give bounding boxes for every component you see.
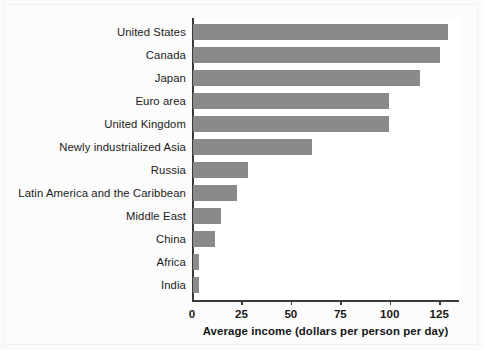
bar bbox=[193, 208, 221, 224]
bar bbox=[193, 24, 448, 40]
bar-row: Euro area bbox=[193, 93, 460, 109]
bar-row: Canada bbox=[193, 47, 460, 63]
x-axis-tick bbox=[241, 300, 242, 305]
bar-row: China bbox=[193, 231, 460, 247]
chart-page: United StatesCanadaJapanEuro areaUnited … bbox=[0, 0, 484, 350]
x-axis-tick bbox=[291, 300, 292, 305]
bar-category-label: Latin America and the Caribbean bbox=[18, 187, 186, 199]
bar bbox=[193, 162, 248, 178]
bar-row: United Kingdom bbox=[193, 116, 460, 132]
bar-category-label: Newly industrialized Asia bbox=[59, 141, 186, 153]
bar-row: Latin America and the Caribbean bbox=[193, 185, 460, 201]
bar-row: Middle East bbox=[193, 208, 460, 224]
bar-row: India bbox=[193, 277, 460, 293]
bar bbox=[193, 139, 312, 155]
bar-category-label: Middle East bbox=[126, 210, 186, 222]
bar-row: Newly industrialized Asia bbox=[193, 139, 460, 155]
bar bbox=[193, 116, 389, 132]
bar-row: Russia bbox=[193, 162, 460, 178]
bar bbox=[193, 70, 420, 86]
bar-row: Japan bbox=[193, 70, 460, 86]
bar bbox=[193, 93, 389, 109]
bar bbox=[193, 185, 237, 201]
bar bbox=[193, 277, 199, 293]
bar-category-label: Japan bbox=[155, 72, 186, 84]
x-axis-tick-label: 125 bbox=[430, 307, 449, 320]
bar-category-label: United Kingdom bbox=[104, 118, 186, 130]
bar-category-label: Africa bbox=[157, 256, 186, 268]
bar-category-label: Russia bbox=[151, 164, 186, 176]
bar-category-label: Canada bbox=[146, 49, 186, 61]
x-axis-tick-label: 75 bbox=[334, 307, 347, 320]
bar-row: United States bbox=[193, 24, 460, 40]
bar bbox=[193, 231, 215, 247]
x-axis-tick-label: 25 bbox=[235, 307, 248, 320]
x-axis-line bbox=[192, 300, 459, 302]
x-axis-tick-label: 50 bbox=[284, 307, 297, 320]
x-axis-tick bbox=[340, 300, 341, 305]
bar bbox=[193, 47, 440, 63]
bar-category-label: United States bbox=[117, 26, 186, 38]
x-axis-tick bbox=[439, 300, 440, 305]
bar-category-label: Euro area bbox=[135, 95, 186, 107]
x-axis-tick bbox=[390, 300, 391, 305]
bar bbox=[193, 254, 199, 270]
x-axis-tick-label: 100 bbox=[380, 307, 399, 320]
x-axis-tick-label: 0 bbox=[189, 307, 195, 320]
bar-category-label: China bbox=[156, 233, 186, 245]
bar-category-label: India bbox=[161, 279, 186, 291]
x-axis-title: Average income (dollars per person per d… bbox=[192, 325, 459, 337]
bar-row: Africa bbox=[193, 254, 460, 270]
